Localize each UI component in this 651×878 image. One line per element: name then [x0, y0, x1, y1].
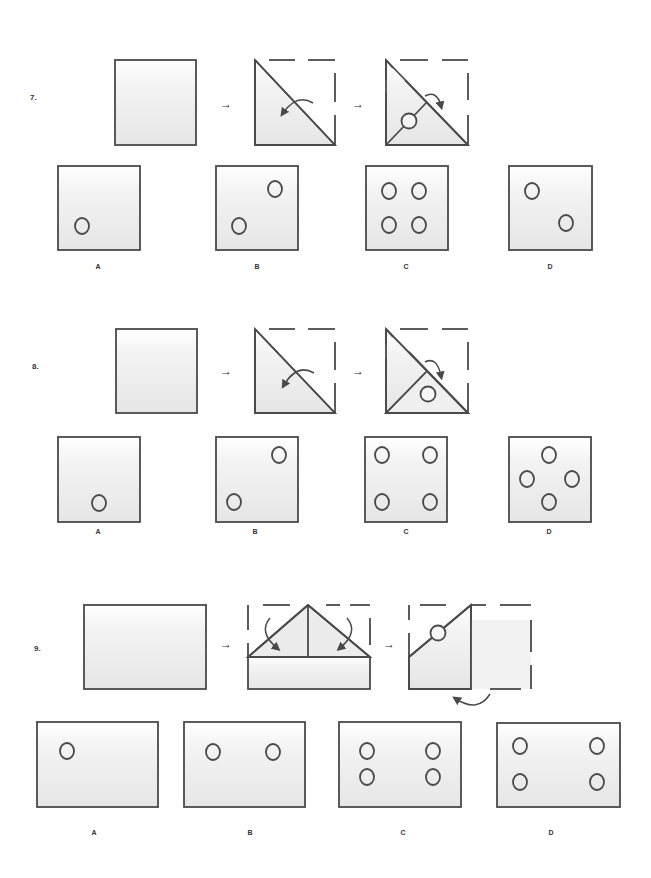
q8-option-a[interactable] — [58, 437, 140, 522]
arrow-right-icon: → — [383, 637, 395, 651]
q8-option-c[interactable] — [365, 437, 447, 522]
q8-step2-diagonal-fold — [255, 329, 335, 413]
question-number-9: 9. — [34, 644, 41, 653]
arrow-right-icon: → — [352, 364, 364, 378]
question-number-7: 7. — [30, 93, 37, 102]
q9-option-a-label[interactable]: A — [84, 829, 104, 836]
q7-option-c[interactable] — [366, 166, 448, 250]
q8-step3-fold-with-hole — [386, 329, 468, 413]
q8-option-d-label[interactable]: D — [539, 528, 559, 535]
arrow-right-icon: → — [220, 97, 232, 111]
q7-option-a[interactable] — [58, 166, 140, 250]
q8-option-b-label[interactable]: B — [245, 528, 265, 535]
q9-step3-fold-with-hole — [409, 605, 531, 705]
q8-option-a-label[interactable]: A — [88, 528, 108, 535]
punch-hole-icon — [421, 387, 436, 402]
q9-option-b[interactable] — [184, 722, 305, 807]
q9-step1-rectangle — [84, 605, 206, 689]
q9-option-d-label[interactable]: D — [541, 829, 561, 836]
q8-step1-square — [116, 329, 197, 413]
q9-option-d[interactable] — [497, 723, 620, 807]
arrow-right-icon: → — [220, 364, 232, 378]
punch-hole-icon — [431, 626, 446, 641]
arrow-right-icon: → — [220, 637, 232, 651]
q7-option-c-label[interactable]: C — [396, 263, 416, 270]
q8-option-b[interactable] — [216, 437, 298, 522]
q7-step1-square — [115, 60, 196, 145]
fold-arrow-icon — [456, 694, 490, 705]
q7-option-a-label[interactable]: A — [88, 263, 108, 270]
q9-option-b-label[interactable]: B — [240, 829, 260, 836]
punch-hole-icon — [402, 114, 417, 129]
q7-option-d[interactable] — [509, 166, 592, 250]
question-number-8: 8. — [32, 362, 39, 371]
q8-option-c-label[interactable]: C — [396, 528, 416, 535]
q9-option-c[interactable] — [339, 722, 461, 807]
q8-option-d[interactable] — [509, 437, 591, 522]
q7-step3-fold-with-hole — [386, 60, 468, 145]
q7-step2-diagonal-fold — [255, 60, 335, 145]
q9-option-a[interactable] — [37, 722, 158, 807]
q7-option-d-label[interactable]: D — [540, 263, 560, 270]
q9-step2-corner-folds — [248, 605, 370, 689]
q9-option-c-label[interactable]: C — [393, 829, 413, 836]
arrow-right-icon: → — [352, 97, 364, 111]
q7-option-b[interactable] — [216, 166, 298, 250]
q7-option-b-label[interactable]: B — [247, 263, 267, 270]
puzzle-canvas — [0, 0, 651, 878]
